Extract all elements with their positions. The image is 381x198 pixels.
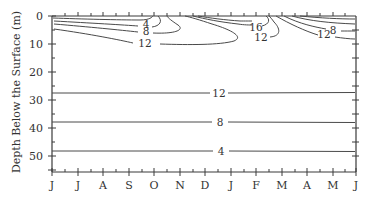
x-tick-labels: J J A S O N D J F M A M J [49, 179, 358, 192]
y-axis-label: Depth Below the Surface (m) [10, 11, 23, 173]
svg-text:M: M [276, 179, 287, 192]
svg-text:A: A [302, 179, 312, 192]
svg-text:J: J [228, 179, 233, 192]
winter-contours: 16 12 [193, 16, 279, 43]
svg-text:20: 20 [29, 66, 43, 79]
svg-text:30: 30 [29, 94, 43, 107]
svg-text:O: O [149, 179, 158, 192]
svg-text:J: J [75, 179, 80, 192]
svg-text:J: J [49, 179, 54, 192]
svg-text:D: D [201, 179, 210, 192]
contour-chart: Depth Below the Surface (m) 0 10 20 [0, 0, 381, 198]
shallow-contours-right: 12 8 [276, 16, 355, 40]
svg-text:40: 40 [29, 122, 43, 135]
svg-text:S: S [125, 179, 133, 192]
y-tick-labels: 0 10 20 30 40 50 [29, 10, 43, 163]
contour-label-12: 12 [138, 37, 151, 49]
svg-text:0: 0 [36, 10, 43, 23]
svg-text:50: 50 [29, 150, 43, 163]
contour-label-8: 8 [143, 25, 150, 37]
svg-text:F: F [252, 179, 260, 192]
svg-text:J: J [353, 179, 358, 192]
contour-label-12-feb: 12 [254, 31, 267, 43]
contour-label-12-deep: 12 [212, 87, 225, 99]
svg-text:A: A [98, 179, 108, 192]
svg-text:N: N [175, 179, 185, 192]
svg-text:10: 10 [29, 38, 43, 51]
contour-label-8-deep: 8 [217, 116, 224, 128]
contour-label-8-spring: 8 [330, 24, 337, 36]
shallow-contours-left: 4 8 12 [53, 16, 238, 49]
contour-label-4-deep: 4 [218, 145, 225, 157]
svg-text:M: M [327, 179, 338, 192]
deep-contours: 12 8 4 [52, 87, 355, 157]
